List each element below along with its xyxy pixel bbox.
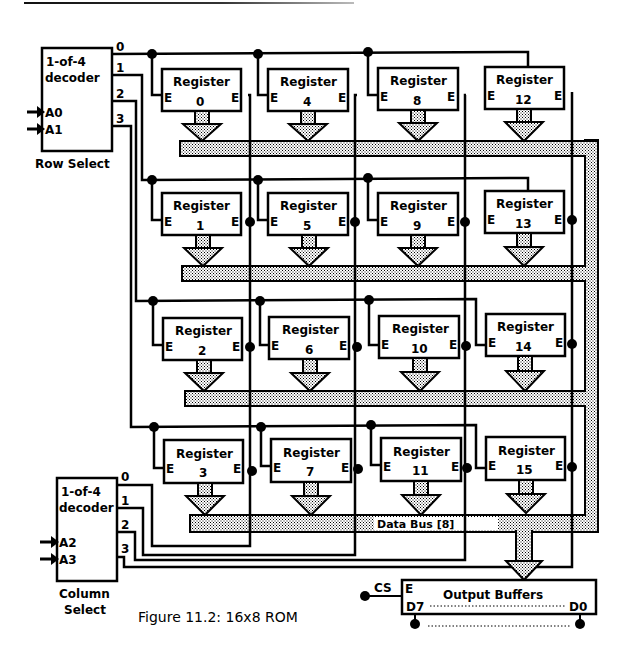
svg-text:E: E bbox=[341, 461, 349, 475]
register-output-arrow-icon bbox=[505, 247, 543, 266]
svg-text:Register: Register bbox=[283, 446, 340, 460]
svg-text:Register: Register bbox=[173, 199, 230, 213]
register-8: Register 8 E E bbox=[363, 47, 458, 141]
row-decoder: 1-of-4 decoder A0 A1 0 1 2 3 Row Select bbox=[27, 40, 124, 171]
svg-text:Register: Register bbox=[390, 199, 447, 213]
register-output-arrow-icon bbox=[290, 248, 328, 266]
register-output-arrow-icon bbox=[185, 373, 223, 391]
svg-text:11: 11 bbox=[412, 464, 429, 478]
svg-text:3: 3 bbox=[199, 466, 207, 480]
svg-text:E: E bbox=[232, 340, 240, 354]
svg-text:Register: Register bbox=[497, 320, 554, 334]
row-output-1: 1 bbox=[116, 61, 124, 75]
svg-text:E: E bbox=[164, 215, 172, 229]
svg-text:E: E bbox=[165, 340, 173, 354]
data-bus-label: Data Bus [8] bbox=[377, 518, 454, 531]
register-2: Register 2 E E bbox=[148, 296, 255, 391]
col-output-0: 0 bbox=[121, 470, 129, 484]
svg-text:E: E bbox=[383, 460, 391, 474]
col-input-a2: A2 bbox=[59, 536, 77, 550]
col-decoder-title-2: decoder bbox=[59, 501, 114, 515]
register-1: Register 1 E E bbox=[147, 175, 255, 266]
column-select-label-1: Column bbox=[59, 587, 110, 601]
register-output-arrow-icon bbox=[505, 122, 543, 141]
row-output-3: 3 bbox=[116, 112, 124, 126]
register-3: Register 3 E E bbox=[149, 422, 257, 515]
col-output-2: 2 bbox=[121, 518, 129, 532]
row-output-2: 2 bbox=[116, 87, 124, 101]
register-output-arrow-icon bbox=[292, 496, 330, 515]
register-output-arrow-icon bbox=[399, 248, 437, 266]
svg-text:E: E bbox=[447, 215, 455, 229]
register-output-arrow-icon bbox=[289, 124, 327, 141]
svg-text:E: E bbox=[449, 338, 457, 352]
svg-text:E: E bbox=[166, 462, 174, 476]
output-buffers-label: Output Buffers bbox=[443, 588, 543, 602]
svg-text:E: E bbox=[488, 459, 496, 473]
row-select-label: Row Select bbox=[35, 157, 110, 171]
svg-text:E: E bbox=[487, 213, 495, 227]
cs-pin bbox=[360, 591, 370, 601]
register-11: Register 11 E E bbox=[366, 420, 472, 515]
register-10: Register 10 E E bbox=[364, 295, 471, 391]
svg-text:Register: Register bbox=[280, 75, 337, 89]
register-output-arrow-icon bbox=[291, 373, 329, 391]
svg-text:9: 9 bbox=[413, 219, 421, 233]
register-output-arrow-icon bbox=[399, 123, 437, 141]
svg-text:E: E bbox=[270, 215, 278, 229]
col-output-1: 1 bbox=[121, 494, 129, 508]
svg-text:E: E bbox=[273, 461, 281, 475]
output-buffers: Output Buffers E D7 D0 CS bbox=[360, 580, 596, 629]
output-msb-label: D7 bbox=[406, 600, 424, 614]
svg-text:Register: Register bbox=[176, 447, 233, 461]
svg-text:4: 4 bbox=[303, 95, 311, 109]
svg-text:Register: Register bbox=[282, 323, 339, 337]
rom-diagram: 1-of-4 decoder A0 A1 0 1 2 3 Row Select bbox=[0, 0, 632, 663]
register-output-arrow-icon bbox=[183, 124, 221, 141]
svg-text:1: 1 bbox=[196, 219, 204, 233]
row-input-a0: A0 bbox=[45, 106, 63, 120]
svg-text:E: E bbox=[271, 339, 279, 353]
d7-pin bbox=[410, 619, 420, 629]
svg-text:E: E bbox=[380, 90, 388, 104]
svg-text:E: E bbox=[488, 336, 496, 350]
output-lsb-label: D0 bbox=[569, 600, 587, 614]
chip-select-label: CS bbox=[374, 581, 392, 595]
d0-pin bbox=[575, 619, 585, 629]
svg-text:Register: Register bbox=[392, 322, 449, 336]
svg-text:E: E bbox=[555, 336, 563, 350]
svg-text:E: E bbox=[447, 90, 455, 104]
register-5: Register 5 E E bbox=[253, 175, 360, 266]
row-decoder-title-1: 1-of-4 bbox=[46, 55, 86, 69]
svg-text:E: E bbox=[164, 91, 172, 105]
col-input-a3: A3 bbox=[59, 553, 77, 567]
row-decoder-title-2: decoder bbox=[45, 71, 100, 85]
column-select-label-2: Select bbox=[64, 603, 106, 617]
register-output-arrow-icon bbox=[401, 372, 439, 391]
col-output-3: 3 bbox=[121, 542, 129, 556]
register-12: Register 12 E E bbox=[485, 67, 564, 141]
row-input-a1: A1 bbox=[45, 123, 63, 137]
svg-text:0: 0 bbox=[196, 95, 204, 109]
svg-text:E: E bbox=[554, 89, 562, 103]
svg-text:E: E bbox=[338, 215, 346, 229]
svg-text:Register: Register bbox=[175, 324, 232, 338]
column-decoder: 1-of-4 decoder A2 A3 0 1 2 3 Column Sele… bbox=[40, 470, 129, 617]
svg-text:E: E bbox=[233, 462, 241, 476]
svg-text:14: 14 bbox=[515, 340, 532, 354]
svg-text:Register: Register bbox=[173, 75, 230, 89]
svg-text:Register: Register bbox=[498, 444, 555, 458]
svg-text:2: 2 bbox=[198, 344, 206, 358]
svg-text:E: E bbox=[270, 91, 278, 105]
register-7: Register 7 E E bbox=[256, 422, 363, 515]
svg-text:15: 15 bbox=[516, 463, 533, 477]
svg-text:8: 8 bbox=[413, 94, 421, 108]
register-6: Register 6 E E bbox=[255, 296, 362, 391]
register-15: Register 15 E E bbox=[486, 437, 577, 513]
register-output-arrow-icon bbox=[402, 495, 440, 515]
register-13: Register 13 E E bbox=[485, 191, 577, 266]
svg-text:E: E bbox=[231, 215, 239, 229]
register-output-arrow-icon bbox=[184, 248, 222, 266]
figure-caption: Figure 11.2: 16x8 ROM bbox=[138, 609, 298, 625]
bus-down-arrow-icon bbox=[506, 561, 542, 580]
